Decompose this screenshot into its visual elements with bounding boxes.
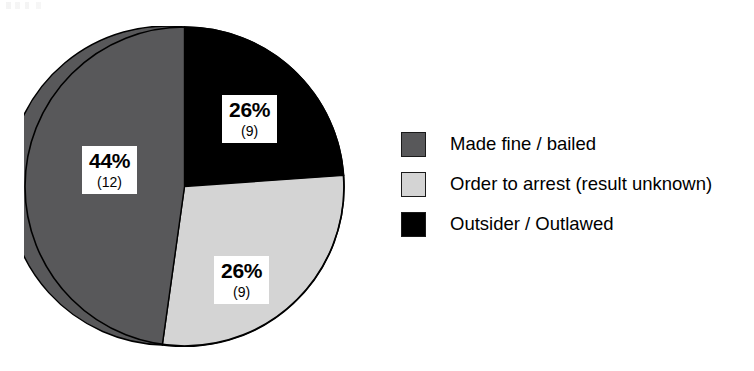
slice-label-made-fine-bailed: 44% (12) (82, 146, 137, 194)
scan-noise-artifact (6, 2, 48, 9)
pie-chart-graphic (24, 26, 345, 347)
slice-label-outsider-outlawed: 26% (9) (222, 95, 277, 143)
legend-item-label: Made fine / bailed (450, 135, 596, 154)
slice-label-order-to-arrest: 26% (9) (214, 256, 269, 304)
legend-swatch-icon (401, 212, 426, 237)
slice-label-percent: 44% (89, 150, 130, 171)
legend-swatch-icon (401, 172, 426, 197)
pie-svg (24, 26, 345, 347)
legend-item-label: Outsider / Outlawed (450, 215, 614, 234)
chart-legend: Made fine / bailed Order to arrest (resu… (401, 124, 746, 244)
pie-chart-figure: 26% (9) 26% (9) 44% (12) Made fine / bai… (0, 0, 754, 371)
legend-item-made-fine-bailed: Made fine / bailed (401, 124, 746, 164)
slice-label-percent: 26% (221, 260, 262, 281)
slice-label-count: (9) (229, 124, 270, 138)
slice-label-count: (12) (89, 175, 130, 189)
legend-item-label: Order to arrest (result unknown) (450, 175, 712, 194)
legend-item-order-to-arrest: Order to arrest (result unknown) (401, 164, 746, 204)
legend-swatch-icon (401, 132, 426, 157)
slice-label-count: (9) (221, 285, 262, 299)
legend-item-outsider-outlawed: Outsider / Outlawed (401, 204, 746, 244)
slice-label-percent: 26% (229, 99, 270, 120)
